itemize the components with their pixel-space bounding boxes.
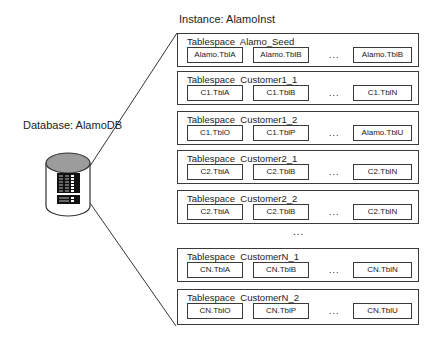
ellipsis: ... <box>329 167 340 177</box>
table-box: C1.TblO <box>187 125 243 141</box>
tablespace-ellipsis: ... <box>293 226 304 237</box>
table-box: Alamo.TblA <box>187 47 243 63</box>
tablespace-customer1-1: Tablespace Customer1_1 C1.TblA C1.TblB .… <box>177 71 419 105</box>
tablespace-customern-2: Tablespace CustomerN_2 CN.TblO CN.TblP .… <box>177 289 419 325</box>
table-box: CN.TblP <box>253 303 309 319</box>
table-box: CN.TblA <box>187 262 243 278</box>
tablespace-label: Tablespace CustomerN_1 <box>187 251 299 262</box>
ellipsis: ... <box>329 88 340 98</box>
tablespace-label: Tablespace Customer1_2 <box>187 114 297 125</box>
table-box: C2.TblN <box>353 204 412 220</box>
ellipsis: ... <box>329 306 340 316</box>
tablespace-customer2-2: Tablespace Customer2_2 C2.TblA C2.TblB .… <box>177 190 419 224</box>
table-box: C2.TblA <box>187 204 243 220</box>
tablespace-label: Tablespace Customer1_1 <box>187 74 297 85</box>
table-box: CN.TblO <box>187 303 243 319</box>
ellipsis: ... <box>329 50 340 60</box>
connector-line-bottom <box>90 203 176 326</box>
ellipsis: ... <box>329 128 340 138</box>
table-box: CN.TblB <box>253 262 309 278</box>
table-box: C1.TblP <box>253 125 309 141</box>
connector-line-top <box>90 33 177 166</box>
tablespace-customer1-2: Tablespace Customer1_2 C1.TblO C1.TblP .… <box>177 111 419 145</box>
tablespace-label: Tablespace CustomerN_2 <box>187 292 299 303</box>
table-box: C1.TblN <box>353 85 412 101</box>
tablespace-customern-1: Tablespace CustomerN_1 CN.TblA CN.TblB .… <box>177 248 419 282</box>
tablespace-alamo-seed: Tablespace Alamo_Seed Alamo.TblA Alamo.T… <box>177 33 419 67</box>
table-box: C2.TblB <box>253 204 309 220</box>
instance-label: Instance: AlamoInst <box>179 13 275 25</box>
table-box: CN.TblU <box>353 303 412 319</box>
tablespace-label: Tablespace Alamo_Seed <box>187 36 294 47</box>
tablespace-customer2-1: Tablespace Customer2_1 C2.TblA C2.TblB .… <box>177 150 419 184</box>
database-cylinder-icon <box>46 153 90 216</box>
table-box: C1.TblB <box>253 85 309 101</box>
table-box: C1.TblA <box>187 85 243 101</box>
database-label: Database: AlamoDB <box>23 119 122 131</box>
table-box: Alamo.TblB <box>253 47 309 63</box>
ellipsis: ... <box>329 265 340 275</box>
table-box: C2.TblA <box>187 164 243 180</box>
tablespace-label: Tablespace Customer2_1 <box>187 153 297 164</box>
table-box: C2.TblN <box>353 164 412 180</box>
table-box: C2.TblB <box>253 164 309 180</box>
table-box: Alamo.TblU <box>353 125 412 141</box>
table-box: CN.TblN <box>353 262 412 278</box>
ellipsis: ... <box>329 207 340 217</box>
tablespace-label: Tablespace Customer2_2 <box>187 193 297 204</box>
table-box: Alamo.TblB <box>353 47 412 63</box>
